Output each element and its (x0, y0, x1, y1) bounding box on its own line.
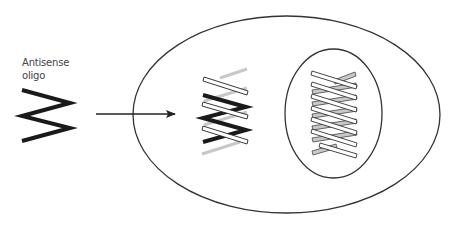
antisense-oligo-strand (22, 90, 70, 141)
cell-membrane (133, 16, 440, 213)
cytoplasm-hybrid (202, 69, 248, 154)
antisense-diagram (0, 0, 461, 228)
nuclear-dna-helix (311, 71, 357, 158)
